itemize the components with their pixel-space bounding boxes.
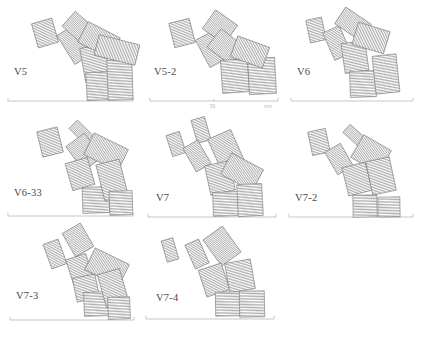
- panel-grid: V5 V5-2 50 mm V6 V6-33 V7 V7-2 V7-3: [0, 0, 421, 341]
- baseline-v6: [291, 98, 413, 101]
- panel-label-v6-33: V6-33: [14, 187, 42, 198]
- panel-v7-2: V7-2: [285, 112, 421, 222]
- voussoir-block: [353, 195, 377, 217]
- voussoir-block: [378, 197, 400, 217]
- panel-empty: [285, 222, 421, 341]
- arch-svg-v6-33: [0, 112, 140, 222]
- arch-drawing-v7-3: [0, 222, 140, 341]
- voussoir-block: [306, 17, 326, 43]
- panel-label-v7-4: V7-4: [156, 292, 178, 303]
- voussoir-block: [215, 292, 240, 316]
- voussoir-block: [372, 54, 400, 94]
- arch-drawing-v7-2: [285, 112, 421, 222]
- panel-label-v5: V5: [14, 66, 27, 77]
- scale-unit-label: mm: [264, 104, 272, 109]
- arch-drawing-v5-2: [140, 0, 285, 112]
- arch-svg-v7-4: [140, 222, 285, 341]
- voussoir-block: [239, 291, 264, 317]
- panel-v5-2: V5-2 50 mm: [140, 0, 285, 112]
- baseline-v5-2: [150, 98, 278, 101]
- panel-v7-4: V7-4: [140, 222, 285, 341]
- panel-label-v7-3: V7-3: [16, 290, 38, 301]
- panel-label-v5-2: V5-2: [154, 66, 176, 77]
- arch-drawing-v6-33: [0, 112, 140, 222]
- voussoir-block: [161, 238, 179, 262]
- voussoir-block: [237, 183, 264, 216]
- arch-svg-v5-2: [140, 0, 285, 112]
- panel-v7: V7: [140, 112, 285, 222]
- arch-svg-v7-3: [0, 222, 140, 341]
- panel-label-v6: V6: [297, 66, 310, 77]
- arch-svg-v6: [285, 0, 421, 112]
- voussoir-block: [107, 60, 133, 101]
- voussoir-block: [203, 226, 241, 266]
- figure-root: V5 V5-2 50 mm V6 V6-33 V7 V7-2 V7-3: [0, 0, 421, 341]
- panel-label-v7-2: V7-2: [295, 192, 317, 203]
- panel-v5: V5: [0, 0, 140, 112]
- arch-drawing-v5: [0, 0, 140, 112]
- arch-drawing-v6: [285, 0, 421, 112]
- panel-label-v7: V7: [156, 192, 169, 203]
- arch-svg-v5: [0, 0, 140, 112]
- voussoir-block: [225, 259, 256, 293]
- voussoir-block: [62, 223, 94, 257]
- voussoir-block: [350, 71, 377, 98]
- voussoir-block: [109, 191, 133, 216]
- arch-drawing-v7-4: [140, 222, 285, 341]
- panel-v7-3: V7-3: [0, 222, 140, 341]
- panel-v6: V6: [285, 0, 421, 112]
- scale-mid-tick-label: 50: [210, 104, 215, 109]
- voussoir-block: [37, 127, 64, 157]
- arch-drawing-v7: [140, 112, 285, 222]
- voussoir-block: [166, 131, 186, 156]
- voussoir-block: [108, 297, 131, 320]
- voussoir-block: [213, 192, 240, 217]
- voussoir-block: [31, 18, 58, 48]
- voussoir-block: [43, 239, 67, 269]
- arch-svg-v7: [140, 112, 285, 222]
- arch-svg-v7-2: [285, 112, 421, 222]
- voussoir-block: [220, 59, 249, 94]
- voussoir-block: [169, 18, 195, 47]
- panel-v6-33: V6-33: [0, 112, 140, 222]
